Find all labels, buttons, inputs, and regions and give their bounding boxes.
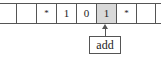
head-pointer-line <box>105 27 106 36</box>
tape-cell: 1 <box>56 4 76 23</box>
head-state-label: add <box>89 36 121 54</box>
tape-cell: * <box>116 4 136 23</box>
turing-tape: * 1 0 1 * <box>0 3 161 24</box>
tape-cell <box>16 4 36 23</box>
tape-cell-current: 1 <box>96 4 116 23</box>
tape-cell <box>136 4 156 23</box>
tape-cell: 0 <box>76 4 96 23</box>
tape-cell: * <box>36 4 56 23</box>
